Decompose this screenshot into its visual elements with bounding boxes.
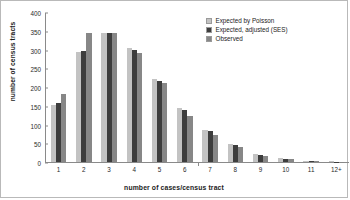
y-tick-label: 50 <box>34 141 45 148</box>
x-tick-text: 8 <box>234 166 238 173</box>
x-axis-title: number of cases/census tract <box>1 184 347 191</box>
legend-swatch-icon <box>206 27 212 33</box>
y-tick-label: 400 <box>30 10 45 17</box>
bar-group <box>97 12 122 162</box>
x-tick-label: 9 <box>248 166 273 173</box>
bar-group <box>324 12 349 162</box>
bar-group <box>172 12 197 162</box>
x-tick-label: 2 <box>71 166 96 173</box>
bar <box>288 159 293 162</box>
bar-groups <box>46 12 349 162</box>
bar <box>61 94 66 162</box>
y-tick-label: 200 <box>30 85 45 92</box>
x-tick-label: 4 <box>122 166 147 173</box>
legend-swatch-icon <box>206 18 212 24</box>
bar <box>112 33 117 162</box>
bar-group <box>299 12 324 162</box>
legend-label: Expected by Poisson <box>216 17 275 24</box>
x-tick-text: 7 <box>208 166 212 173</box>
y-tick-label: 300 <box>30 47 45 54</box>
x-tick-text: 5 <box>158 166 162 173</box>
bar-group <box>71 12 96 162</box>
legend-label: Observed <box>216 35 243 42</box>
bar <box>238 147 243 162</box>
x-tick-text: 12+ <box>331 166 342 173</box>
y-tick-mark <box>45 163 48 164</box>
x-tick-label: 7 <box>198 166 223 173</box>
y-tick-label: 250 <box>30 66 45 73</box>
x-tick-text: 2 <box>82 166 86 173</box>
y-axis-title: number of census tracts <box>9 7 16 117</box>
x-tick-label: 12+ <box>324 166 349 173</box>
x-tick-mark <box>198 163 199 166</box>
y-tick-label: 0 <box>37 160 45 167</box>
bar <box>187 116 192 162</box>
x-tick-label: 11 <box>299 166 324 173</box>
x-tick-text: 9 <box>259 166 263 173</box>
x-axis-ticks: 123456789101112+ <box>46 166 349 173</box>
chart-legend: Expected by PoissonExpected, adjusted (S… <box>206 17 288 42</box>
legend-item[interactable]: Expected by Poisson <box>206 17 288 24</box>
x-tick-label: 8 <box>223 166 248 173</box>
bar <box>213 135 218 162</box>
legend-item[interactable]: Expected, adjusted (SES) <box>206 26 288 33</box>
chart-figure: number of census tracts 0501001502002503… <box>0 0 348 198</box>
x-tick-label: 3 <box>97 166 122 173</box>
y-tick-label: 100 <box>30 122 45 129</box>
bar <box>162 83 167 162</box>
y-tick-label: 350 <box>30 28 45 35</box>
bar <box>314 161 319 162</box>
legend-item[interactable]: Observed <box>206 35 288 42</box>
x-tick-text: 10 <box>282 166 289 173</box>
x-tick-text: 3 <box>107 166 111 173</box>
x-tick-label: 10 <box>273 166 298 173</box>
x-tick-text: 6 <box>183 166 187 173</box>
bar <box>86 33 91 162</box>
bar <box>137 53 142 162</box>
bar-group <box>46 12 71 162</box>
x-tick-text: 11 <box>308 166 315 173</box>
x-tick-text: 1 <box>57 166 61 173</box>
x-tick-label: 5 <box>147 166 172 173</box>
x-tick-label: 1 <box>46 166 71 173</box>
plot-area: 050100150200250300350400 <box>45 13 195 163</box>
x-tick-label: 6 <box>172 166 197 173</box>
y-tick-label: 150 <box>30 103 45 110</box>
legend-swatch-icon <box>206 36 212 42</box>
bar <box>263 156 268 162</box>
x-tick-text: 4 <box>133 166 137 173</box>
bar-group <box>122 12 147 162</box>
bar-group <box>147 12 172 162</box>
legend-label: Expected, adjusted (SES) <box>216 26 288 33</box>
